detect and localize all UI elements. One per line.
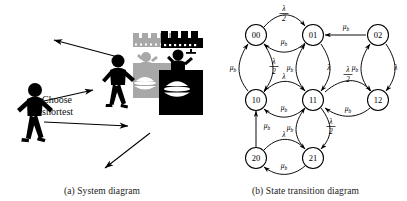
panel-system-diagram: Choose shortest (a) System diagram [0,0,204,201]
queued-customer-icon [102,55,135,109]
state-label-01: 01 [309,30,318,40]
edge-label-12-to-11: μb [345,104,352,114]
edge-label-02-to-12: λ [393,63,398,72]
lambda-numer-4: λ [328,117,333,126]
edge-label-02-to-01: μb [343,22,350,32]
state-label-11: 11 [309,95,317,105]
edge-label-12-to-02: μb [352,63,359,73]
choose-shortest-line1: Choose [42,94,73,106]
denom-1: 2 [282,14,286,23]
state-label-12: 12 [374,95,383,105]
panel-state-transition-diagram: 00 01 02 10 11 12 [204,0,407,201]
state-label-02: 02 [374,30,383,40]
choose-shortest-line2: shortest [42,106,73,118]
edge-10-to-11 [264,81,305,92]
edge-label-21-to-11: μb [287,123,294,133]
departure-arrow-lower-left [105,133,150,168]
lambda-numer-3: λ [345,65,350,74]
state-node-20[interactable]: 20 [246,148,267,169]
state-node-21[interactable]: 21 [303,148,324,169]
choose-shortest-annotation: Choose shortest [42,94,73,117]
state-node-01[interactable]: 01 [303,25,324,46]
lambda-numer-2: λ [271,57,276,66]
edge-label-01-to-00: μb [281,37,288,47]
edge-label-11-to-01: μb [287,63,294,73]
edge-label-10-to-11: λ [281,72,286,81]
black-attendant-icon [167,49,196,71]
figure-container: Choose shortest (a) System diagram [0,0,407,201]
state-node-02[interactable]: 02 [368,25,389,46]
state-transition-graphics: 00 01 02 10 11 12 [204,0,407,178]
state-label-10: 10 [252,95,261,105]
edge-11-to-01 [296,44,305,91]
caption-state-transition-diagram: (b) State transition diagram [204,186,407,196]
server-station-black [159,31,203,115]
denom-2: 2 [272,67,276,76]
edge-label-11-to-10: μb [281,103,288,113]
join-queue-arrow-lower [44,122,128,126]
denom-4: 2 [329,127,333,136]
state-label-21: 21 [309,153,318,163]
edge-10-to-00 [239,44,248,91]
state-node-11[interactable]: 11 [303,90,324,111]
state-label-00: 00 [252,30,261,40]
state-node-00[interactable]: 00 [246,25,267,46]
departure-arrow-upper-left [54,40,118,57]
state-node-12[interactable]: 12 [368,90,389,111]
edge-label-20-to-21: λ [281,130,286,139]
edge-label-01-to-11: λ [326,63,331,72]
denom-3: 2 [346,75,350,84]
edge-label-00-to-10: λ 2 [270,57,279,76]
state-label-20: 20 [252,153,261,163]
state-node-10[interactable]: 10 [246,90,267,111]
caption-system-diagram: (a) System diagram [0,186,204,196]
edge-label-20-to-10: μb [264,121,271,131]
edge-label-00-to-01: λ 2 [280,4,289,23]
edge-label-10-to-00: μb [230,63,237,73]
edge-label-21-to-20: μb [281,161,288,171]
system-diagram-graphics [0,0,204,175]
lambda-numer-1: λ [281,4,286,13]
